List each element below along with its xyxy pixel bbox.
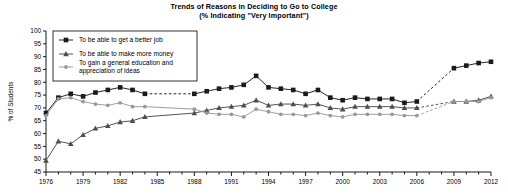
- data-point-square: [365, 97, 370, 102]
- legend-label-2-line1: appreciation of ideas: [79, 67, 141, 75]
- series-segment: [417, 102, 454, 116]
- data-point-triangle: [56, 138, 62, 143]
- data-point-square: [68, 92, 73, 97]
- data-point-circle: [81, 100, 85, 104]
- data-point-square: [192, 92, 197, 97]
- series-segment: [244, 109, 256, 117]
- x-tick-label: 2000: [336, 178, 351, 185]
- data-point-square: [390, 97, 395, 102]
- series-1: [43, 93, 494, 162]
- y-tick-label: 90: [34, 53, 42, 60]
- x-tick-label: 1982: [113, 178, 128, 185]
- x-tick-label: 1988: [187, 178, 202, 185]
- data-point-triangle: [80, 132, 86, 137]
- series-segment: [46, 141, 58, 160]
- x-tick-label: 2012: [484, 178, 499, 185]
- data-point-circle: [353, 112, 357, 116]
- data-point-square: [353, 95, 358, 100]
- y-tick-label: 45: [34, 168, 42, 175]
- data-point-square: [476, 61, 481, 66]
- data-point-circle: [267, 110, 271, 114]
- data-point-circle: [205, 111, 209, 115]
- data-point-square: [402, 100, 407, 105]
- x-tick-label: 1991: [224, 178, 239, 185]
- data-point-square: [106, 88, 111, 93]
- data-point-square: [291, 88, 296, 93]
- data-point-square: [93, 90, 98, 95]
- data-point-triangle: [43, 158, 49, 163]
- x-tick-label: 2009: [447, 178, 462, 185]
- y-tick-label: 60: [34, 130, 42, 137]
- x-tick-label: 1985: [150, 178, 165, 185]
- data-point-square: [415, 99, 420, 104]
- legend-label-2-line0: To gain a general education and: [79, 59, 173, 67]
- series-segment: [145, 113, 194, 117]
- data-point-square: [340, 98, 345, 103]
- data-point-square: [130, 88, 135, 93]
- data-point-square: [279, 86, 284, 91]
- data-point-square: [81, 94, 86, 99]
- data-point-triangle: [253, 97, 259, 102]
- data-point-circle: [304, 114, 308, 118]
- data-point-square: [328, 95, 333, 100]
- y-tick-label: 50: [34, 155, 42, 162]
- data-point-circle: [254, 107, 258, 111]
- data-point-square: [489, 59, 494, 64]
- data-point-circle: [390, 112, 394, 116]
- x-tick-label: 2003: [373, 178, 388, 185]
- data-point-circle: [279, 112, 283, 116]
- data-point-circle: [489, 96, 493, 100]
- series-segment: [417, 102, 454, 108]
- data-point-circle: [328, 114, 332, 118]
- data-point-circle: [94, 102, 98, 106]
- series-segment: [46, 99, 58, 116]
- data-point-circle: [230, 112, 234, 116]
- data-point-square: [217, 86, 222, 91]
- series-segment: [145, 107, 194, 110]
- data-point-circle: [452, 100, 456, 104]
- y-tick-label: 80: [34, 79, 42, 86]
- data-point-circle: [291, 112, 295, 116]
- data-point-square: [118, 85, 123, 90]
- y-tick-label: 95: [34, 40, 42, 47]
- chart-root: Trends of Reasons in Deciding to Go to C…: [0, 0, 508, 195]
- data-point-circle: [56, 97, 60, 101]
- data-point-circle: [341, 115, 345, 119]
- chart-svg: 1009590858075706560555045% of Students19…: [0, 0, 508, 195]
- data-point-square: [229, 85, 234, 90]
- x-tick-label: 1976: [39, 178, 54, 185]
- data-point-square: [452, 66, 457, 71]
- data-point-square: [254, 74, 259, 79]
- data-point-circle: [143, 105, 147, 109]
- data-point-circle: [192, 107, 196, 111]
- data-point-circle: [477, 100, 481, 104]
- x-tick-label: 2006: [410, 178, 425, 185]
- y-axis-title: % of Students: [7, 82, 14, 122]
- chart-legend: To be able to get a better jobTo be able…: [53, 31, 197, 81]
- data-point-square: [303, 92, 308, 97]
- data-point-square: [204, 89, 209, 94]
- series-segment: [46, 98, 58, 113]
- data-point-circle: [217, 112, 221, 116]
- x-tick-label: 1994: [261, 178, 276, 185]
- data-point-square: [377, 97, 382, 102]
- data-point-circle: [464, 100, 468, 104]
- y-tick-label: 55: [34, 143, 42, 150]
- data-point-circle: [106, 103, 110, 107]
- legend-label-1: To be able to make more money: [79, 50, 174, 58]
- data-point-square: [64, 38, 69, 43]
- x-tick-label: 1997: [298, 178, 313, 185]
- y-tick-label: 85: [34, 66, 42, 73]
- y-tick-label: 100: [30, 27, 41, 34]
- series-segment: [417, 68, 454, 101]
- data-point-circle: [403, 114, 407, 118]
- y-tick-label: 65: [34, 117, 42, 124]
- data-point-circle: [118, 101, 122, 105]
- data-point-circle: [242, 115, 246, 119]
- series-segment: [120, 103, 132, 107]
- data-point-circle: [365, 112, 369, 116]
- data-point-circle: [44, 114, 48, 118]
- data-point-square: [316, 88, 321, 93]
- legend-label-0: To be able to get a better job: [79, 36, 163, 44]
- data-point-square: [464, 63, 469, 68]
